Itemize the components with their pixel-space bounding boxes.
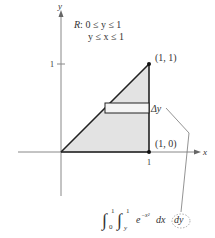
x-axis-label: x	[202, 147, 207, 157]
outer-integral-sign: ∫	[101, 210, 108, 231]
y-axis-label: y	[57, 1, 62, 11]
y-tick-label: 1	[50, 60, 54, 69]
inner-lower-limit: y	[123, 224, 128, 232]
outer-lower-limit: 0	[109, 223, 113, 231]
dy-term: dy	[174, 214, 184, 225]
iterated-integral: ∫ 1 0 ∫ 1 y e −x² dx dy	[101, 207, 184, 232]
representative-rectangle	[105, 103, 149, 113]
region-definition-line1: R: 0 ≤ y ≤ 1	[73, 19, 121, 30]
leader-line	[166, 108, 189, 212]
y-axis-arrow-icon	[59, 10, 64, 17]
point-1-0	[147, 150, 151, 154]
inner-integral-sign: ∫	[116, 210, 123, 231]
x-tick-label: 1	[147, 158, 151, 167]
outer-upper-limit: 1	[111, 207, 115, 215]
region-definition-line2: y ≤ x ≤ 1	[88, 31, 124, 42]
point-1-1-label: (1, 1)	[155, 52, 177, 64]
integrand-exponent: −x²	[141, 212, 150, 218]
delta-y-label: Δy	[150, 103, 162, 114]
x-axis-arrow-icon	[194, 150, 201, 155]
inner-upper-limit: 1	[126, 207, 130, 215]
integration-region-diagram: y x R: 0 ≤ y ≤ 1 y ≤ x ≤ 1 1 1 (1, 1) (1…	[0, 0, 215, 238]
point-1-1	[147, 62, 151, 66]
point-1-0-label: (1, 0)	[155, 138, 177, 150]
dx-term: dx	[156, 214, 166, 225]
